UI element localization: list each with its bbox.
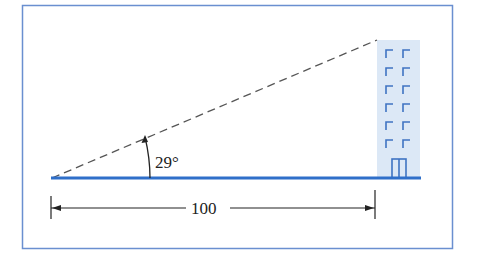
building-icon (377, 40, 420, 178)
arrow-left-icon (52, 205, 61, 211)
arrow-right-icon (365, 205, 374, 211)
distance-label: 100 (191, 199, 217, 218)
line-of-sight (52, 40, 377, 178)
angle-label: 29° (155, 153, 179, 172)
angle-arc-icon (142, 135, 151, 178)
elevation-diagram: 29° 100 (0, 0, 477, 264)
